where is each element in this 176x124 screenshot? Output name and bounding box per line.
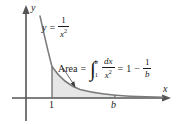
figure-area-under-curve: y x 1 b y = 1 x2 Area = ∫ b 1 dx x2 = (0, 0, 176, 124)
curve-eq-numerator: 1 (59, 16, 68, 25)
curve-eq-lhs: y (42, 23, 46, 33)
result-fraction: 1 b (143, 58, 152, 80)
definite-integral: ∫ b 1 (90, 59, 99, 79)
integrand-denominator-exponent: 2 (109, 69, 112, 75)
curve-equation-label: y = 1 x2 (42, 16, 69, 40)
integrand-numerator: dx (102, 57, 115, 66)
x-axis-label: x (163, 84, 167, 94)
curve-eq-denominator-exponent: 2 (64, 28, 67, 34)
x-tick-label-1: 1 (49, 100, 54, 110)
result-denominator: b (143, 70, 152, 79)
integrand-denominator: x2 (103, 69, 114, 80)
result-minus-sign: − (133, 64, 141, 74)
area-equation-label: Area = ∫ b 1 dx x2 = 1 − 1 b (58, 57, 151, 81)
x-axis-arrowhead (162, 94, 171, 101)
area-eq-equals-2: = (117, 64, 125, 74)
curve-eq-equals: = (48, 23, 56, 33)
curve-eq-fraction: 1 x2 (58, 16, 69, 40)
curve-eq-denominator: x2 (58, 28, 69, 39)
integral-sign: ∫ (90, 61, 96, 77)
integrand-fraction: dx x2 (102, 57, 115, 81)
area-word: Area (58, 64, 77, 74)
result-numerator: 1 (143, 58, 152, 67)
y-axis-arrowhead (22, 5, 29, 14)
y-axis-label: y (31, 3, 35, 13)
result-first-term: 1 (126, 64, 131, 74)
x-tick-label-b: b (111, 100, 116, 110)
integrand-fraction-bar (102, 67, 115, 68)
area-eq-equals: = (79, 64, 87, 74)
curve-eq-fraction-bar (58, 26, 69, 27)
